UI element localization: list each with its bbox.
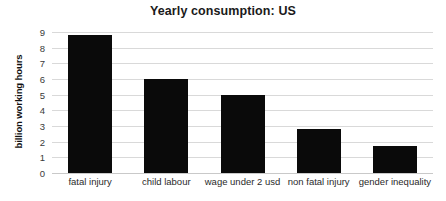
y-axis-tick-label: 1 <box>40 152 45 163</box>
y-axis-tick-label: 7 <box>40 58 45 69</box>
x-axis-tick-label: wage under 2 usd <box>205 176 281 187</box>
bars <box>52 32 433 173</box>
bar <box>144 79 188 173</box>
x-axis-tick-label: child labour <box>142 176 191 187</box>
bar <box>373 146 417 173</box>
y-axis-tick-label: 5 <box>40 89 45 100</box>
y-axis-tick-label: 0 <box>40 168 45 179</box>
x-axis-tick-label: non fatal injury <box>288 176 350 187</box>
chart-title: Yearly consumption: US <box>0 4 446 18</box>
x-axis-tick-label: fatal injury <box>68 176 111 187</box>
bar <box>297 129 341 173</box>
gridline <box>52 173 433 174</box>
y-axis-tick-label: 9 <box>40 27 45 38</box>
x-axis-labels: fatal injurychild labourwage under 2 usd… <box>52 176 433 194</box>
y-axis-tick-label: 2 <box>40 136 45 147</box>
y-axis-tick-label: 3 <box>40 121 45 132</box>
bar <box>68 35 112 173</box>
y-axis-tick-label: 8 <box>40 42 45 53</box>
bar-chart: Yearly consumption: US billion working h… <box>0 0 446 201</box>
y-axis-tick-label: 6 <box>40 74 45 85</box>
plot-area: 0123456789 <box>52 32 433 173</box>
y-axis-title: billion working hours <box>13 47 24 157</box>
bar <box>221 95 265 173</box>
y-axis-tick-label: 4 <box>40 105 45 116</box>
x-axis-tick-label: gender inequality <box>359 176 431 187</box>
